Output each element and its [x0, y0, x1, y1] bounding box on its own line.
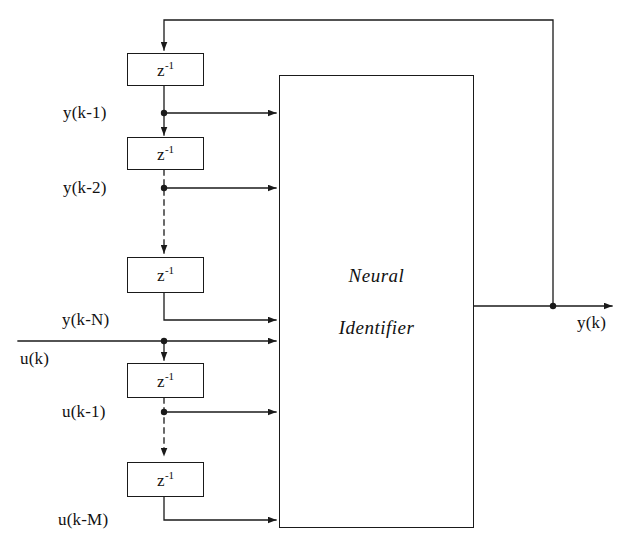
delay-block-y-k-N: z-1	[127, 257, 204, 293]
junction-dot-y-k-2	[161, 185, 167, 191]
junction-dot-u-k-1	[161, 409, 167, 415]
tap-wire-u-k-M	[164, 497, 276, 520]
delay-block-label: z-1	[157, 469, 174, 491]
signal-label-u-k-1: u(k-1)	[62, 402, 106, 422]
neural-identifier-title-line2: Identifier	[339, 317, 415, 339]
delay-block-label: z-1	[157, 59, 174, 81]
neural-identifier-diagram: z-1 z-1 z-1 z-1 z-1 Neural Identifier y(…	[0, 0, 637, 551]
delay-block-label: z-1	[157, 143, 174, 165]
signal-label-y-k-output: y(k)	[577, 313, 606, 333]
junction-dot-u-k	[161, 338, 167, 344]
delay-block-y-k-1: z-1	[127, 53, 204, 86]
signal-label-u-k-M: u(k-M)	[58, 510, 108, 530]
tap-wire-y-k-N	[164, 293, 276, 320]
delay-block-label: z-1	[157, 370, 174, 392]
junction-dot-y-k-1	[161, 110, 167, 116]
delay-block-u-k-1: z-1	[127, 363, 204, 398]
signal-label-y-k-2: y(k-2)	[63, 178, 107, 198]
signal-label-y-k-1: y(k-1)	[63, 103, 107, 123]
neural-identifier-title-line1: Neural	[349, 265, 405, 287]
signal-label-y-k-N: y(k-N)	[62, 310, 109, 330]
delay-block-y-k-2: z-1	[127, 137, 204, 170]
delay-block-label: z-1	[157, 264, 174, 286]
signal-label-u-k: u(k)	[20, 349, 49, 369]
junction-dot-y-k-output	[550, 303, 556, 309]
delay-block-u-k-M: z-1	[127, 462, 204, 497]
neural-identifier-block: Neural Identifier	[279, 75, 474, 528]
